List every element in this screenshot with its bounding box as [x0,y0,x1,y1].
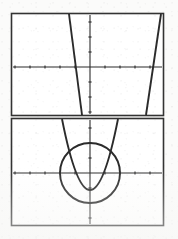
top-panel-frame [12,14,164,116]
two-panel-graph-figure [0,0,178,239]
top-panel [12,14,164,116]
bottom-panel [12,119,164,226]
graph-canvas [0,0,178,239]
bottom-panel-frame [12,119,164,226]
